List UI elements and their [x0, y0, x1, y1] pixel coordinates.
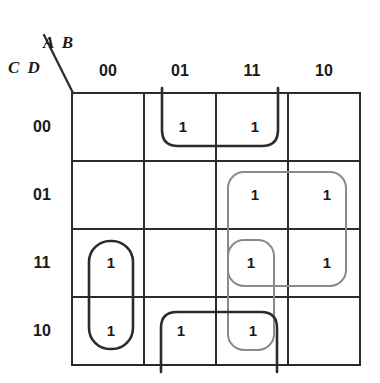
cell-r11-c11: 1 [240, 253, 262, 273]
cell-r10-c01: 1 [170, 321, 192, 341]
row-header-11: 11 [18, 254, 66, 272]
row-header-00: 00 [18, 118, 66, 136]
column-header-00: 00 [72, 62, 144, 80]
axis-label-ab: A B [43, 33, 75, 53]
cell-r00-c01: 1 [172, 117, 194, 137]
row-header-10: 10 [18, 322, 66, 340]
row-header-01: 01 [18, 186, 66, 204]
cell-r00-c11: 1 [244, 117, 266, 137]
cell-r01-c10: 1 [316, 185, 338, 205]
cell-r10-c00: 1 [100, 321, 122, 341]
axis-label-cd: C D [8, 58, 42, 78]
column-header-11: 11 [216, 62, 288, 80]
karnaugh-map: A B C D 00 01 11 10 00 01 11 10 1 1 1 1 … [0, 0, 380, 383]
cell-r10-c11: 1 [242, 321, 264, 341]
cell-r11-c00: 1 [100, 253, 122, 273]
column-header-10: 10 [288, 62, 360, 80]
column-header-01: 01 [144, 62, 216, 80]
cell-r01-c11: 1 [244, 185, 266, 205]
cell-r11-c10: 1 [316, 253, 338, 273]
